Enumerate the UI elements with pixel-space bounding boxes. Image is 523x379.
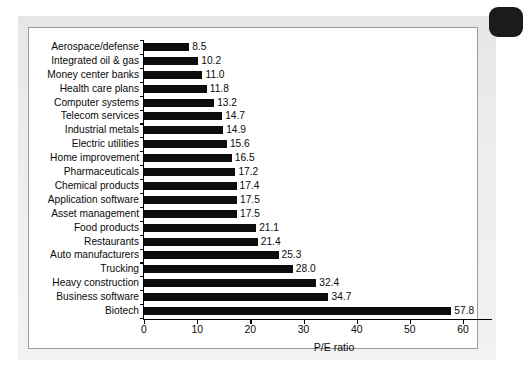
bar-value-label: 8.5 bbox=[192, 42, 206, 52]
y-axis-tick bbox=[140, 235, 144, 236]
category-label: Electric utilities bbox=[72, 139, 139, 149]
bar-value-label: 10.2 bbox=[201, 56, 221, 66]
category-label: Asset management bbox=[51, 209, 139, 219]
category-label: Heavy construction bbox=[52, 278, 139, 288]
category-label: Money center banks bbox=[47, 70, 139, 80]
bar-row: Electric utilities15.6 bbox=[144, 140, 463, 148]
category-label: Health care plans bbox=[60, 84, 139, 94]
bar bbox=[144, 43, 189, 51]
bar bbox=[144, 265, 293, 273]
category-label: Computer systems bbox=[54, 97, 139, 107]
x-axis-tick-label: 40 bbox=[351, 325, 363, 335]
y-axis-tick bbox=[140, 137, 144, 138]
bar-value-label: 21.1 bbox=[259, 223, 279, 233]
x-axis-title: P/E ratio bbox=[29, 341, 479, 353]
bar bbox=[144, 307, 451, 315]
bar-value-label: 11.8 bbox=[210, 84, 229, 94]
bar-value-label: 28.0 bbox=[296, 264, 316, 274]
bar bbox=[144, 293, 328, 301]
bar-row: Industrial metals14.9 bbox=[144, 126, 463, 134]
y-axis-tick bbox=[140, 290, 144, 291]
bar-row: Home improvement16.5 bbox=[144, 154, 463, 162]
y-axis-tick bbox=[140, 207, 144, 208]
bar bbox=[144, 196, 237, 204]
bar-value-label: 17.4 bbox=[240, 181, 260, 191]
category-label: Pharmaceuticals bbox=[64, 167, 139, 177]
bar bbox=[144, 168, 235, 176]
y-axis-tick bbox=[140, 96, 144, 97]
bar bbox=[144, 126, 223, 134]
bar-value-label: 17.5 bbox=[240, 195, 260, 205]
bar-value-label: 11.0 bbox=[205, 70, 224, 80]
x-axis-line bbox=[143, 319, 492, 320]
bar bbox=[144, 71, 202, 79]
bar-value-label: 13.2 bbox=[217, 97, 237, 107]
bar-row: Application software17.5 bbox=[144, 196, 463, 204]
bar-value-label: 17.2 bbox=[238, 167, 258, 177]
bar-row: Computer systems13.2 bbox=[144, 99, 463, 107]
bar-row: Pharmaceuticals17.2 bbox=[144, 168, 463, 176]
y-axis-tick bbox=[140, 82, 144, 83]
bar-row: Auto manufacturers25.3 bbox=[144, 251, 463, 259]
x-axis-tick-label: 30 bbox=[298, 325, 310, 335]
category-label: Home improvement bbox=[50, 153, 139, 163]
y-axis-tick bbox=[140, 54, 144, 55]
y-axis-tick bbox=[140, 262, 144, 263]
x-axis-tick-label: 10 bbox=[191, 325, 203, 335]
bar bbox=[144, 112, 222, 120]
y-axis-tick bbox=[140, 165, 144, 166]
category-label: Business software bbox=[56, 292, 139, 302]
bar bbox=[144, 279, 316, 287]
plot-area: Aerospace/defense8.5Integrated oil & gas… bbox=[29, 28, 479, 350]
page-corner-tab-icon bbox=[489, 7, 523, 37]
bar-row: Health care plans11.8 bbox=[144, 85, 463, 93]
bar-row: Food products21.1 bbox=[144, 224, 463, 232]
bar-value-label: 21.4 bbox=[261, 236, 281, 246]
y-axis-tick bbox=[140, 40, 144, 41]
bar-row: Restaurants21.4 bbox=[144, 238, 463, 246]
bar bbox=[144, 85, 207, 93]
x-axis-tick-label: 50 bbox=[404, 325, 416, 335]
y-axis-tick bbox=[140, 68, 144, 69]
category-label: Auto manufacturers bbox=[50, 250, 139, 260]
bar bbox=[144, 210, 237, 218]
y-axis-tick bbox=[140, 110, 144, 111]
bar-row: Chemical products17.4 bbox=[144, 182, 463, 190]
bar-value-label: 34.7 bbox=[331, 292, 351, 302]
y-axis-tick bbox=[140, 151, 144, 152]
y-axis-tick bbox=[140, 249, 144, 250]
bar bbox=[144, 238, 258, 246]
x-axis-tick-label: 0 bbox=[141, 325, 147, 335]
bar-row: Trucking28.0 bbox=[144, 265, 463, 273]
bar-row: Money center banks11.0 bbox=[144, 71, 463, 79]
bar bbox=[144, 251, 279, 259]
bar-value-label: 32.4 bbox=[319, 278, 339, 288]
category-label: Chemical products bbox=[55, 181, 139, 191]
category-label: Restaurants bbox=[84, 236, 139, 246]
bar-value-label: 15.6 bbox=[230, 139, 250, 149]
category-label: Integrated oil & gas bbox=[51, 56, 139, 66]
bar-row: Asset management17.5 bbox=[144, 210, 463, 218]
bar bbox=[144, 224, 256, 232]
bar bbox=[144, 182, 237, 190]
y-axis-tick bbox=[140, 304, 144, 305]
y-axis-tick bbox=[140, 221, 144, 222]
x-axis-tick-label: 60 bbox=[457, 325, 469, 335]
bar-value-label: 16.5 bbox=[235, 153, 255, 163]
bar-row: Heavy construction32.4 bbox=[144, 279, 463, 287]
chart-card: Aerospace/defense8.5Integrated oil & gas… bbox=[28, 27, 478, 349]
bar-row: Business software34.7 bbox=[144, 293, 463, 301]
bar-row: Aerospace/defense8.5 bbox=[144, 43, 463, 51]
bar bbox=[144, 154, 232, 162]
bar-row: Integrated oil & gas10.2 bbox=[144, 57, 463, 65]
category-label: Trucking bbox=[100, 264, 139, 274]
bar-value-label: 14.9 bbox=[226, 125, 246, 135]
category-label: Industrial metals bbox=[65, 125, 139, 135]
bar-row: Biotech57.8 bbox=[144, 307, 463, 315]
bar bbox=[144, 140, 227, 148]
bar-series: Aerospace/defense8.5Integrated oil & gas… bbox=[144, 40, 463, 318]
category-label: Application software bbox=[48, 195, 139, 205]
bar-row: Telecom services14.7 bbox=[144, 112, 463, 120]
category-label: Biotech bbox=[105, 306, 139, 316]
